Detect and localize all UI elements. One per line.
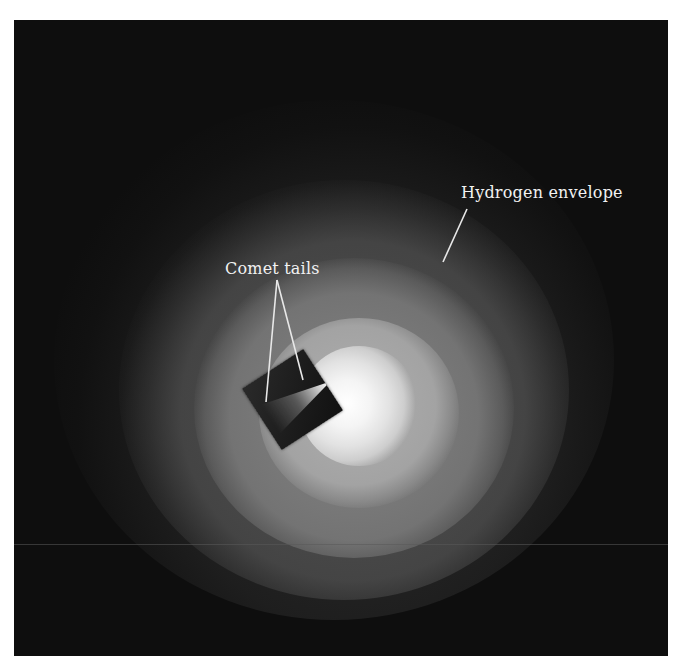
comet-image: Hydrogen envelope Comet tails	[14, 20, 668, 656]
comet-tails-pointer-left	[266, 280, 277, 402]
comet-tails-pointer-right	[277, 280, 303, 380]
comet-tails-label: Comet tails	[225, 259, 320, 278]
hydrogen-envelope-pointer	[443, 209, 467, 262]
annotation-pointers	[14, 20, 668, 656]
hydrogen-envelope-label: Hydrogen envelope	[461, 183, 623, 202]
